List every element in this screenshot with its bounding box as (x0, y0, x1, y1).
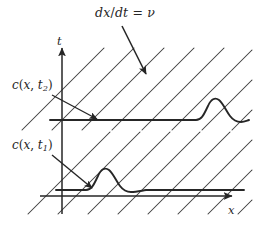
figure-canvas (0, 0, 253, 231)
velocity-arrow (122, 26, 146, 74)
characteristic-line (238, 200, 252, 214)
c-x-t2-arrow (52, 95, 97, 119)
velocity-label: dx/dt = ν (95, 7, 155, 20)
characteristic-line (178, 140, 252, 214)
advection-figure: dx/dt = ν c(x, t2) c(x, t1) t x (0, 0, 253, 231)
c-x-t1-arrow (52, 155, 92, 188)
c-t1-close-paren: ) (48, 138, 53, 152)
x-axis-label: x (228, 205, 235, 217)
characteristic-line (118, 132, 200, 214)
velocity-equals: = (128, 5, 147, 20)
velocity-nu: ν (147, 5, 155, 20)
c-t2-close-paren: ) (48, 78, 53, 92)
c-t2-comma: , (30, 78, 38, 92)
characteristic-line (52, 48, 134, 130)
velocity-d1: d (95, 5, 103, 20)
c-x-t2-label: c(x, t2) (12, 79, 53, 92)
characteristic-line (112, 48, 194, 130)
characteristic-line (172, 50, 252, 130)
c-t2-base: c (12, 78, 19, 92)
c-x-t1-label: c(x, t1) (12, 139, 53, 152)
t-axis-label: t (57, 36, 62, 48)
c-t1-comma: , (30, 138, 38, 152)
c-t1-base: c (12, 138, 19, 152)
velocity-d2: d (115, 5, 123, 20)
characteristic-line (142, 48, 224, 130)
characteristic-line (148, 132, 230, 214)
